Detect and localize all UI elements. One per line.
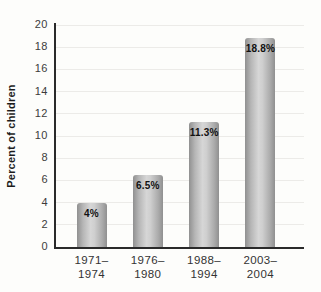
- bar: 6.5%: [133, 175, 163, 247]
- bar: 11.3%: [189, 122, 219, 247]
- x-axis-category-label: 1976– 1980: [116, 254, 180, 282]
- bar: 4%: [77, 203, 107, 247]
- x-axis-category-label: 1988– 1994: [172, 254, 236, 282]
- y-tick-label: 10: [20, 129, 48, 141]
- gridline: [56, 25, 304, 26]
- bar: 18.8%: [245, 38, 275, 247]
- x-axis-category-label: 1971– 1974: [60, 254, 124, 282]
- y-tick-label: 12: [20, 107, 48, 119]
- y-tick-label: 4: [20, 196, 48, 208]
- y-tick-label: 8: [20, 151, 48, 163]
- x-axis-line: [54, 247, 304, 249]
- y-tick-label: 2: [20, 218, 48, 230]
- x-axis-category-label: 2003– 2004: [228, 254, 292, 282]
- bar-value-label: 6.5%: [133, 180, 163, 191]
- bar-chart: Percent of children 02468101214161820 4%…: [0, 0, 321, 292]
- bar-value-label: 11.3%: [189, 127, 219, 138]
- y-tick-label: 18: [20, 40, 48, 52]
- y-tick-label: 20: [20, 18, 48, 30]
- bar-value-label: 18.8%: [245, 43, 275, 54]
- y-tick-label: 14: [20, 85, 48, 97]
- y-axis-title: Percent of children: [5, 66, 21, 206]
- y-tick-label: 6: [20, 173, 48, 185]
- y-tick-label: 16: [20, 62, 48, 74]
- bar-value-label: 4%: [77, 208, 107, 219]
- y-tick-label: 0: [20, 240, 48, 252]
